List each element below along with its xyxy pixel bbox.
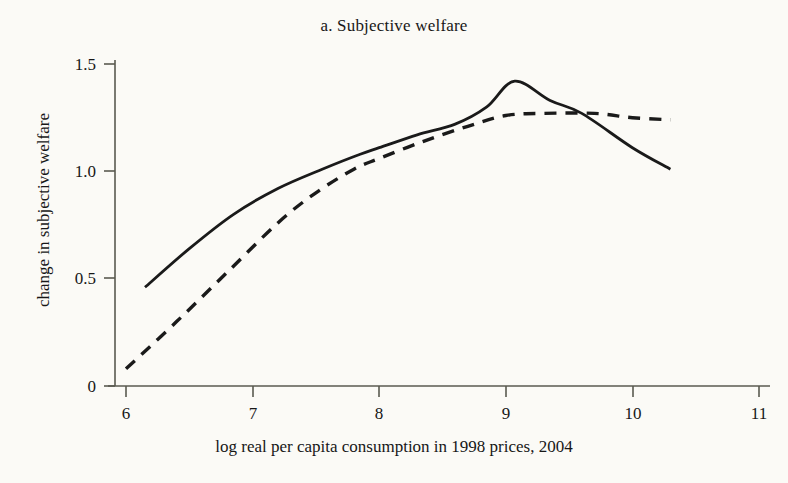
x-tick-label: 8 [375, 404, 384, 423]
x-tick-labels: 6 7 8 9 10 11 [122, 404, 767, 423]
y-tick-label: 0 [88, 377, 97, 396]
y-tick-label: 1.5 [75, 55, 96, 74]
y-tick-label: 1.0 [75, 162, 96, 181]
y-tick-labels: 1.5 1.0 0.5 0 [75, 55, 96, 396]
plot-area: 1.5 1.0 0.5 0 6 7 8 9 10 11 [0, 0, 788, 483]
x-tick-label: 6 [122, 404, 131, 423]
series-line-dashed [126, 113, 670, 369]
x-tick-label: 11 [751, 404, 767, 423]
x-tick-label: 10 [625, 404, 642, 423]
x-tick-label: 7 [249, 404, 258, 423]
x-tick-label: 9 [502, 404, 511, 423]
y-tick-marks [104, 64, 115, 386]
data-series-group [126, 81, 670, 369]
chart-figure: a. Subjective welfare change in subjecti… [0, 0, 788, 483]
y-tick-label: 0.5 [75, 269, 96, 288]
x-tick-marks [126, 386, 759, 397]
